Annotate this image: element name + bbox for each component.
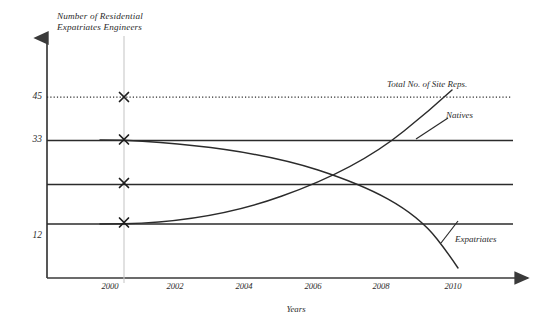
x-tick-label-2010: 2010 bbox=[428, 281, 478, 291]
y-axis-title-line1: Number of Residential bbox=[57, 11, 143, 21]
series-line-expatriates bbox=[100, 140, 458, 268]
y-tick-label-12: 12 bbox=[16, 230, 42, 242]
y-axis-title: Number of Residential Expatriates Engine… bbox=[57, 11, 179, 33]
y-axis-title-line2: Expatriates Engineers bbox=[57, 22, 179, 33]
y-tick-label-33: 33 bbox=[16, 134, 42, 146]
x-tick-label-2000: 2000 bbox=[85, 281, 135, 291]
chart-container: Number of Residential Expatriates Engine… bbox=[0, 0, 543, 333]
total-site-reps-annotation: Total No. of Site Reps. bbox=[387, 79, 467, 90]
x-tick-label-2002: 2002 bbox=[150, 281, 200, 291]
series-line-natives bbox=[100, 90, 452, 224]
expatriates-annotation: Expatriates bbox=[455, 234, 497, 245]
y-tick-label-45: 45 bbox=[16, 91, 42, 103]
natives-annotation: Natives bbox=[446, 110, 473, 121]
x-tick-label-2006: 2006 bbox=[288, 281, 338, 291]
x-tick-label-2004: 2004 bbox=[219, 281, 269, 291]
x-tick-label-2008: 2008 bbox=[356, 281, 406, 291]
natives-leader-line bbox=[416, 118, 448, 139]
x-axis-title: Years bbox=[261, 304, 331, 315]
